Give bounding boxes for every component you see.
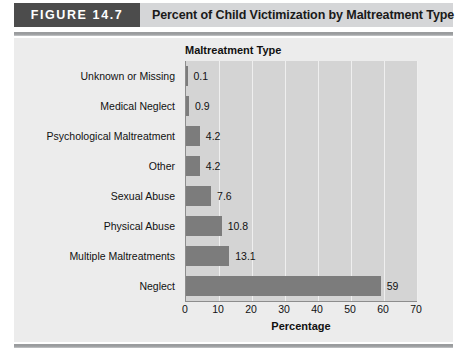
chart-panel: Maltreatment Type Unknown or MissingMedi… bbox=[14, 38, 453, 342]
bar-value-label: 10.8 bbox=[228, 216, 248, 236]
category-label: Neglect bbox=[139, 271, 175, 301]
bar-row: 13.1 bbox=[186, 241, 417, 271]
gridline bbox=[417, 61, 418, 301]
figure-container: FIGURE 14.7 Percent of Child Victimizati… bbox=[0, 0, 467, 356]
bar-value-label: 0.9 bbox=[195, 96, 210, 116]
chart-title: Maltreatment Type bbox=[185, 44, 281, 56]
bar-row: 0.1 bbox=[186, 61, 417, 91]
bar-row: 7.6 bbox=[186, 181, 417, 211]
x-tick-label: 10 bbox=[212, 303, 224, 315]
x-tick-label: 60 bbox=[377, 303, 389, 315]
bar-row: 0.9 bbox=[186, 91, 417, 121]
bar bbox=[186, 156, 200, 176]
figure-number-label: FIGURE 14.7 bbox=[31, 8, 124, 22]
category-label: Psychological Maltreatment bbox=[47, 121, 175, 151]
x-tick-label: 70 bbox=[410, 303, 422, 315]
bar-row: 59 bbox=[186, 271, 417, 301]
bar bbox=[186, 186, 211, 206]
bars-layer: 0.10.94.24.27.610.813.159 bbox=[186, 61, 417, 301]
bar bbox=[186, 216, 222, 236]
bar bbox=[186, 66, 188, 86]
category-label: Medical Neglect bbox=[100, 91, 175, 121]
category-label: Other bbox=[149, 151, 175, 181]
figure-header: FIGURE 14.7 Percent of Child Victimizati… bbox=[0, 0, 467, 30]
x-tick-label: 20 bbox=[245, 303, 257, 315]
bar-row: 4.2 bbox=[186, 151, 417, 181]
figure-title: Percent of Child Victimization by Maltre… bbox=[152, 3, 454, 27]
category-label: Unknown or Missing bbox=[80, 61, 175, 91]
figure-number-badge: FIGURE 14.7 bbox=[14, 3, 140, 27]
bar-value-label: 0.1 bbox=[194, 66, 209, 86]
x-axis-tick-labels: 010203040506070 bbox=[185, 303, 417, 319]
bar-value-label: 4.2 bbox=[206, 126, 221, 146]
bar-row: 4.2 bbox=[186, 121, 417, 151]
bar bbox=[186, 96, 189, 116]
x-tick-label: 30 bbox=[278, 303, 290, 315]
plot-area: 0.10.94.24.27.610.813.159 bbox=[185, 61, 417, 301]
x-axis-title: Percentage bbox=[185, 320, 417, 332]
bar bbox=[186, 276, 381, 296]
bar-value-label: 7.6 bbox=[217, 186, 232, 206]
x-tick-label: 40 bbox=[311, 303, 323, 315]
x-tick-label: 50 bbox=[344, 303, 356, 315]
footer-divider-rule bbox=[14, 344, 453, 348]
category-axis-labels: Unknown or MissingMedical NeglectPsychol… bbox=[14, 61, 181, 301]
bar-value-label: 13.1 bbox=[235, 246, 255, 266]
category-label: Multiple Maltreatments bbox=[69, 241, 175, 271]
category-label: Sexual Abuse bbox=[111, 181, 175, 211]
bar bbox=[186, 246, 229, 266]
bar-value-label: 59 bbox=[387, 276, 399, 296]
category-label: Physical Abuse bbox=[104, 211, 175, 241]
bar bbox=[186, 126, 200, 146]
x-axis-line bbox=[185, 301, 417, 302]
x-tick-label: 0 bbox=[182, 303, 188, 315]
header-divider-rule bbox=[14, 32, 453, 36]
bar-row: 10.8 bbox=[186, 211, 417, 241]
bar-value-label: 4.2 bbox=[206, 156, 221, 176]
